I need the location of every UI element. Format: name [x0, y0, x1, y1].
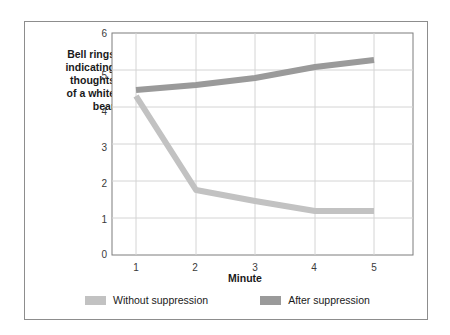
chart-legend: Without suppression After suppression [85, 291, 385, 309]
line-chart-plot [25, 22, 429, 321]
legend-swatch-after-suppression [260, 296, 281, 305]
legend-label-after-suppression: After suppression [288, 294, 370, 306]
legend-item-after-suppression: After suppression [260, 294, 370, 306]
figure-card: Bell rings indicating thoughts of a whit… [24, 21, 428, 320]
legend-label-without-suppression: Without suppression [113, 294, 208, 306]
legend-item-without-suppression: Without suppression [85, 294, 208, 306]
legend-swatch-without-suppression [85, 296, 106, 305]
